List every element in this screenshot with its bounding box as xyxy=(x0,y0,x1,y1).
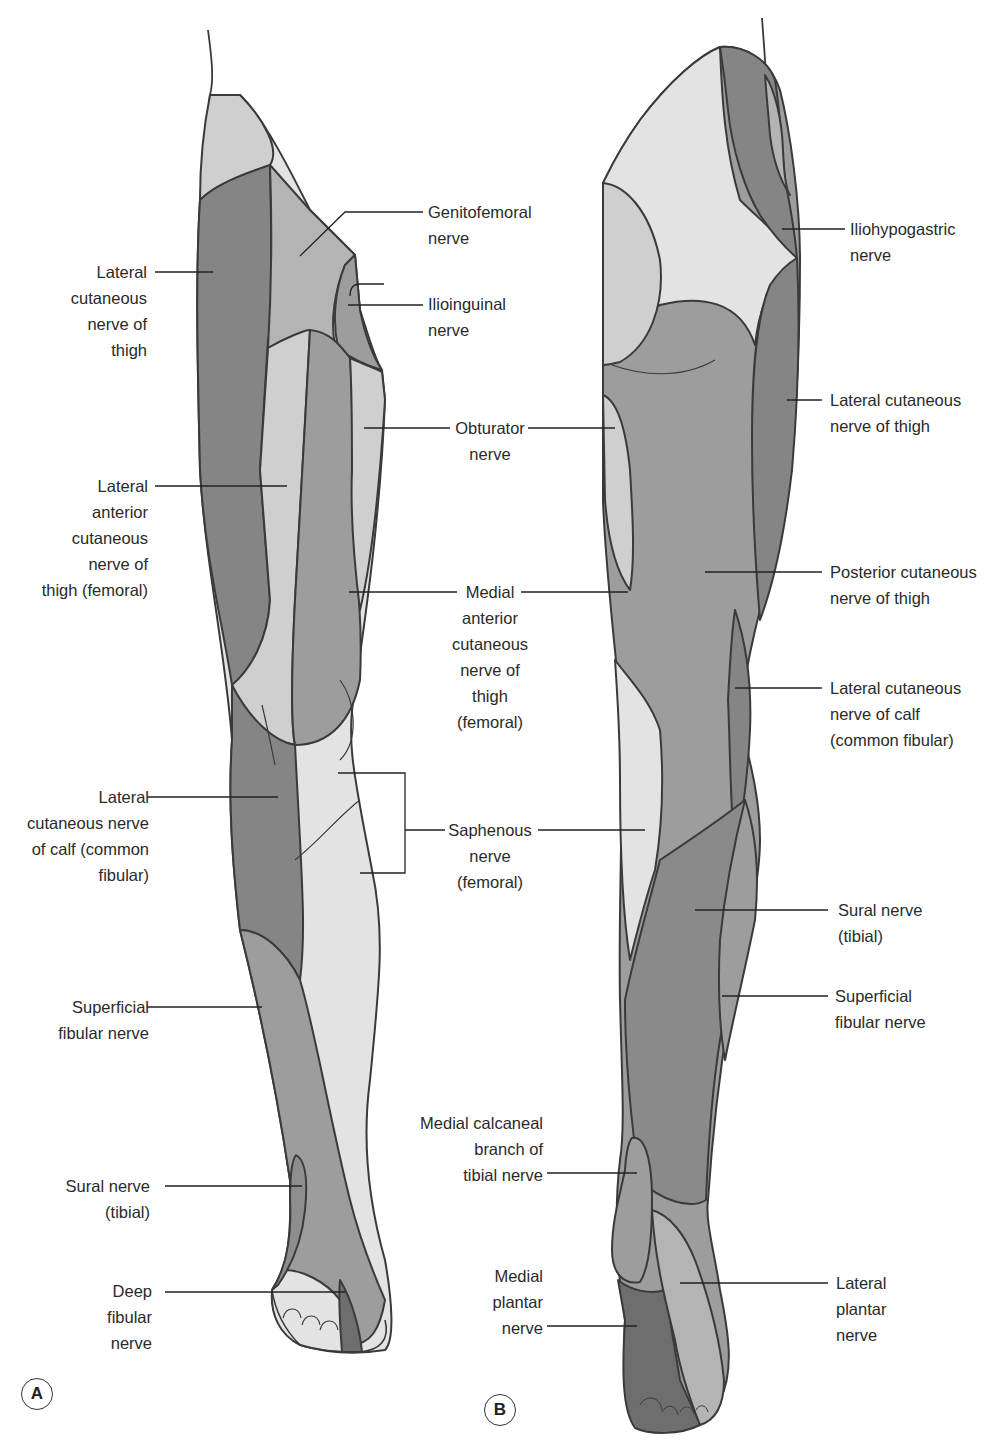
label-medial-calcaneal-branch: Medial calcaneal branch of tibial nerve xyxy=(420,1110,543,1188)
label-saphenous-nerve: Saphenous nerve (femoral) xyxy=(430,817,550,895)
label-lateral-cutaneous-nerve-of-thigh-b: Lateral cutaneous nerve of thigh xyxy=(830,387,961,439)
label-deep-fibular-nerve: Deep fibular nerve xyxy=(107,1278,152,1356)
label-sural-nerve-a: Sural nerve (tibial) xyxy=(66,1173,150,1225)
label-medial-anterior-cutaneous-nerve-of-thigh: Medial anterior cutaneous nerve of thigh… xyxy=(440,579,540,735)
panel-badge-b: B xyxy=(484,1394,516,1426)
cutaneous-innervation-figure: Genitofemoral nerve Ilioinguinal nerve L… xyxy=(0,0,1001,1441)
label-superficial-fibular-nerve-a: Superficial fibular nerve xyxy=(58,994,149,1046)
label-lateral-cutaneous-nerve-of-thigh-a: Lateral cutaneous nerve of thigh xyxy=(71,259,147,363)
label-superficial-fibular-nerve-b: Superficial fibular nerve xyxy=(835,983,926,1035)
label-sural-nerve-b: Sural nerve (tibial) xyxy=(838,897,922,949)
label-ilioinguinal-nerve: Ilioinguinal nerve xyxy=(428,291,506,343)
label-medial-plantar-nerve: Medial plantar nerve xyxy=(493,1263,543,1341)
label-lateral-plantar-nerve: Lateral plantar nerve xyxy=(836,1270,886,1348)
label-genitofemoral-nerve: Genitofemoral nerve xyxy=(428,199,532,251)
label-lateral-cutaneous-nerve-of-calf-a: Lateral cutaneous nerve of calf (common … xyxy=(27,784,149,888)
label-lateral-cutaneous-nerve-of-calf-b: Lateral cutaneous nerve of calf (common … xyxy=(830,675,961,753)
label-lateral-anterior-cutaneous-nerve-of-thigh: Lateral anterior cutaneous nerve of thig… xyxy=(42,473,148,603)
panel-badge-a: A xyxy=(21,1378,53,1410)
label-obturator-nerve: Obturator nerve xyxy=(440,415,540,467)
label-iliohypogastric-nerve: Iliohypogastric nerve xyxy=(850,216,955,268)
label-posterior-cutaneous-nerve-of-thigh: Posterior cutaneous nerve of thigh xyxy=(830,559,977,611)
